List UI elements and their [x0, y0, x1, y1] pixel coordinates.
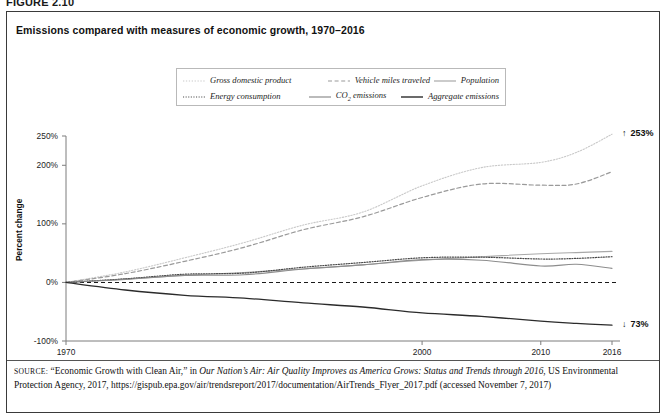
legend-item-gross-domestic-product: Gross domestic product: [183, 75, 328, 85]
y-tick-0: -100%: [18, 336, 58, 346]
legend-item-aggregate-emissions: Aggregate emissions: [401, 91, 499, 101]
annotation-decrease: ↓73%: [622, 319, 649, 329]
legend-row-2: Energy consumption CO2 emissions Aggrega…: [183, 88, 499, 104]
chart-title: Emissions compared with measures of econ…: [16, 24, 365, 36]
gdp-line-swatch-icon: [183, 76, 205, 85]
legend-label-energy: Energy consumption: [210, 91, 281, 101]
annotation-increase: ↑253%: [622, 128, 654, 138]
energy-line-swatch-icon: [183, 92, 205, 101]
source-text-1: “Economic Growth with Clean Air,” in: [51, 366, 200, 376]
aggregate-line-swatch-icon: [401, 92, 423, 101]
y-axis-title: Percent change: [14, 199, 24, 261]
co2-line-swatch-icon: [309, 92, 331, 101]
legend-item-vehicle-miles-traveled: Vehicle miles traveled: [328, 75, 434, 85]
legend-item-population: Population: [434, 75, 499, 85]
chart-legend: Gross domestic product Vehicle miles tra…: [176, 68, 506, 106]
source-prefix: SOURCE:: [14, 367, 48, 376]
source-note: SOURCE: “Economic Growth with Clean Air,…: [14, 365, 648, 391]
population-line-swatch-icon: [434, 76, 456, 85]
source-divider: [7, 360, 659, 361]
x-tick-1: 2000: [402, 347, 442, 357]
decrease-arrow-icon: ↓: [622, 319, 627, 329]
x-tick-3: 2016: [592, 347, 632, 357]
legend-label-population: Population: [461, 75, 499, 85]
source-italic-title: Our Nation’s Air: Air Quality Improves a…: [199, 366, 543, 376]
x-tick-2: 2010: [521, 347, 561, 357]
y-tick-3: 200%: [18, 160, 58, 170]
y-tick-2: 100%: [18, 218, 58, 228]
decrease-value: 73%: [631, 319, 649, 329]
increase-arrow-icon: ↑: [622, 128, 627, 138]
y-tick-4: 250%: [18, 131, 58, 141]
x-tick-0: 1970: [46, 347, 86, 357]
legend-label-aggregate: Aggregate emissions: [428, 91, 499, 101]
legend-label-gdp: Gross domestic product: [210, 75, 291, 85]
figure-label: FIGURE 2.10: [6, 0, 74, 8]
legend-row-1: Gross domestic product Vehicle miles tra…: [183, 72, 499, 88]
legend-label-co2: CO2 emissions: [336, 90, 387, 102]
increase-value: 253%: [631, 128, 654, 138]
legend-item-co2-emissions: CO2 emissions: [309, 90, 401, 102]
legend-item-energy-consumption: Energy consumption: [183, 91, 309, 101]
vmt-line-swatch-icon: [328, 76, 350, 85]
legend-label-vmt: Vehicle miles traveled: [355, 75, 430, 85]
y-tick-1: 0%: [18, 277, 58, 287]
